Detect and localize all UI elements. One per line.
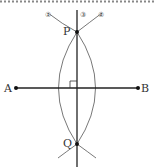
label-p: P <box>63 25 71 38</box>
label-a: A <box>3 82 13 95</box>
label-b: B <box>141 82 149 95</box>
point-b <box>136 86 140 90</box>
arc-2 <box>77 13 102 158</box>
point-p <box>75 30 79 34</box>
marker-arc-1: ① <box>45 11 51 19</box>
point-a <box>14 86 18 90</box>
label-q: Q <box>63 137 72 150</box>
point-q <box>75 142 79 146</box>
perpendicular-bisector-diagram: A B P Q ① ③ ② <box>0 0 156 167</box>
marker-line-3: ③ <box>80 11 86 19</box>
right-angle-mark <box>70 81 77 88</box>
marker-arc-2: ② <box>98 11 104 19</box>
